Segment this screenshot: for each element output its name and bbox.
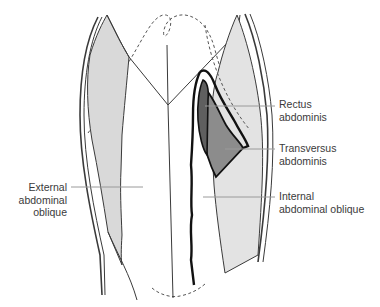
- label-internal-line2: abdominal oblique: [279, 203, 364, 216]
- rectus-abdominis-shape: [198, 80, 209, 155]
- label-internal-abdominal-oblique: Internal abdominal oblique: [279, 190, 364, 215]
- label-external-line2: abdominal: [19, 194, 67, 207]
- label-transversus-line1: Transversus: [279, 142, 336, 155]
- label-rectus-line1: Rectus: [279, 98, 327, 111]
- label-rectus-abdominis: Rectus abdominis: [279, 98, 327, 123]
- label-external-line1: External: [19, 181, 67, 194]
- label-transversus-line2: abdominis: [279, 155, 336, 168]
- label-rectus-line2: abdominis: [279, 111, 327, 124]
- label-external-abdominal-oblique: External abdominal oblique: [19, 181, 67, 219]
- label-external-line3: oblique: [19, 206, 67, 219]
- label-transversus-abdominis: Transversus abdominis: [279, 142, 336, 167]
- label-internal-line1: Internal: [279, 190, 364, 203]
